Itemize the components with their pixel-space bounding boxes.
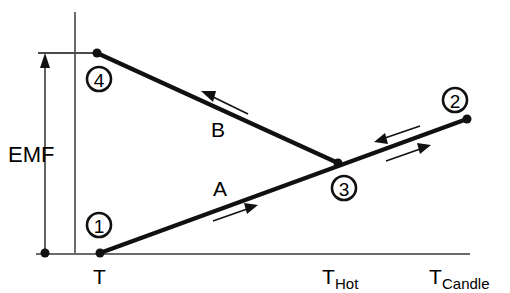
node-4-label: 4 bbox=[94, 70, 105, 91]
x-tick-label-t: T bbox=[93, 265, 106, 288]
thermocouple-emf-diagram: EMF A B 1 bbox=[0, 0, 510, 293]
x-tick-t-main: T bbox=[93, 265, 106, 288]
emf-baseline-dot bbox=[41, 249, 50, 258]
node-4-point bbox=[93, 49, 102, 58]
node-1-label: 1 bbox=[94, 216, 105, 237]
x-tick-thot-sub: Hot bbox=[335, 275, 359, 292]
x-tick-tcandle-sub: Candle bbox=[442, 275, 490, 292]
segment-b-line bbox=[97, 53, 338, 163]
x-tick-tcandle-main: T bbox=[429, 265, 442, 288]
segment-a-label: A bbox=[213, 177, 227, 200]
x-tick-label-tcandle: T Candle bbox=[429, 265, 490, 292]
flow-arrow-upper-right-icon bbox=[374, 126, 420, 144]
x-tick-thot-main: T bbox=[322, 265, 335, 288]
emf-arrowhead-icon bbox=[40, 53, 50, 68]
node-3-label: 3 bbox=[339, 179, 350, 200]
segment-b-label: B bbox=[211, 118, 225, 141]
node-3-point bbox=[334, 159, 343, 168]
emf-axis-label: EMF bbox=[8, 142, 54, 167]
node-2-label: 2 bbox=[450, 91, 461, 112]
node-1-point bbox=[96, 249, 105, 258]
diagram-canvas: EMF A B 1 bbox=[0, 0, 510, 293]
x-tick-label-thot: T Hot bbox=[322, 265, 359, 292]
node-2-point bbox=[463, 115, 472, 124]
